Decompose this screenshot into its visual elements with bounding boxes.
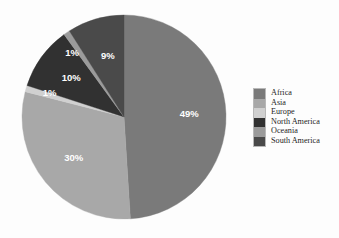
- legend-label-europe[interactable]: Europe: [271, 107, 320, 117]
- legend-label-asia[interactable]: Asia: [271, 98, 320, 108]
- chart-legend: AfricaAsiaEuropeNorth AmericaOceaniaSout…: [253, 88, 320, 147]
- legend-swatch-asia[interactable]: [254, 99, 265, 109]
- pie-slice-africa[interactable]: [124, 15, 226, 219]
- legend-label-column: AfricaAsiaEuropeNorth AmericaOceaniaSout…: [271, 88, 320, 145]
- legend-label-oceania[interactable]: Oceania: [271, 126, 320, 136]
- legend-swatch-column: [253, 88, 266, 147]
- legend-swatch-north-america[interactable]: [254, 118, 265, 128]
- pie-slice-value-africa: 49%: [180, 108, 200, 119]
- legend-label-africa[interactable]: Africa: [271, 88, 320, 98]
- legend-label-south-america[interactable]: South America: [271, 136, 320, 146]
- pie-slice-value-europe: 1%: [43, 87, 57, 98]
- legend-swatch-oceania[interactable]: [254, 127, 265, 137]
- pie-chart-plot-area: 49%30%1%10%1%9%: [0, 0, 245, 238]
- pie-chart-svg: 49%30%1%10%1%9%: [0, 0, 245, 238]
- legend-label-north-america[interactable]: North America: [271, 117, 320, 127]
- legend-swatch-south-america[interactable]: [254, 137, 265, 147]
- pie-slice-value-oceania: 1%: [65, 47, 79, 58]
- legend-swatch-europe[interactable]: [254, 108, 265, 118]
- pie-slice-value-south-america: 9%: [101, 50, 115, 61]
- legend-swatch-africa[interactable]: [254, 89, 265, 99]
- pie-slice-value-asia: 30%: [64, 152, 84, 163]
- pie-chart-figure: 49%30%1%10%1%9% AfricaAsiaEuropeNorth Am…: [0, 0, 339, 238]
- pie-slice-value-north-america: 10%: [62, 72, 82, 83]
